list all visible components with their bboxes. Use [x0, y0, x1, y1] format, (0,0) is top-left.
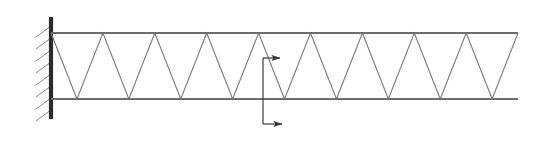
truss-diagram-figure: Cantilever Warren truss fixed at left wa…	[0, 0, 556, 144]
diagram-background	[0, 0, 556, 144]
truss-diagram-canvas	[0, 0, 556, 144]
